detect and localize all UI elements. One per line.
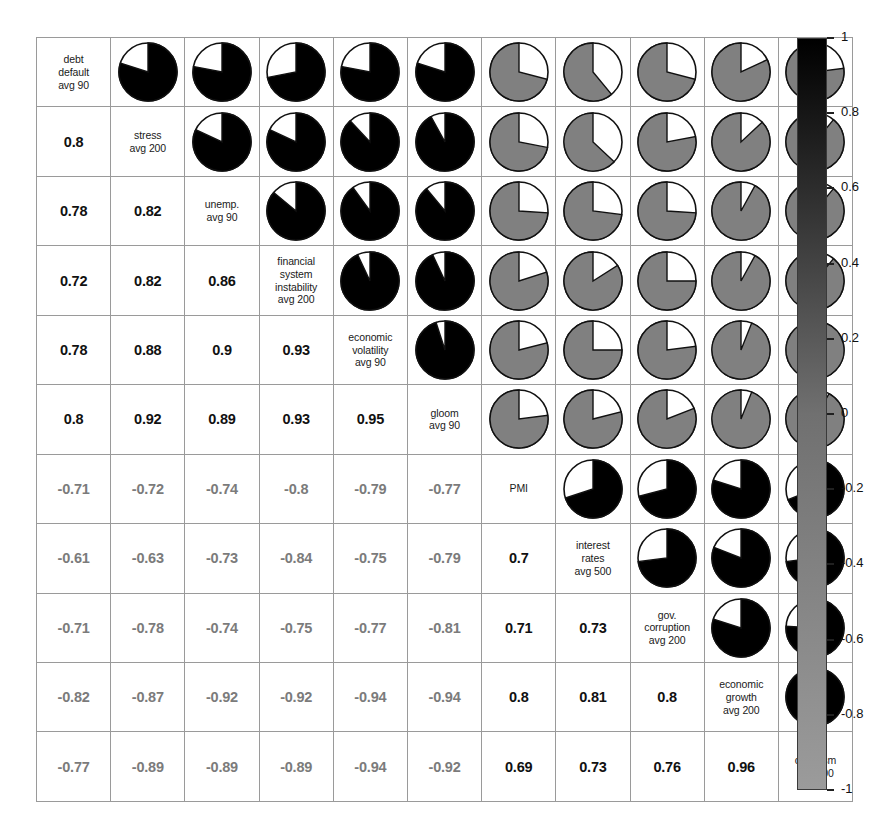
correlation-value: -0.89 [206, 759, 238, 775]
variable-label: gloomavg 90 [408, 407, 481, 433]
correlation-value-cell: 0.96 [704, 732, 778, 801]
colorbar-tick-label: 0.8 [841, 104, 859, 119]
colorbar-tick-mark [827, 789, 834, 791]
pie-glyph [408, 38, 481, 106]
pie-glyph [408, 316, 481, 384]
correlation-pie-cell [333, 176, 407, 245]
pie-glyph [334, 177, 407, 245]
correlation-pie-cell [630, 38, 704, 107]
correlation-pie-cell [407, 176, 481, 245]
colorbar-tick-mark [827, 563, 834, 565]
correlation-pie-cell [482, 107, 556, 176]
correlation-value-cell: -0.77 [333, 593, 407, 662]
colorbar-tick-label: 1 [841, 29, 848, 44]
correlation-value-cell: -0.89 [111, 732, 185, 801]
correlation-pie-cell [704, 246, 778, 315]
pie-glyph [482, 177, 555, 245]
pie-glyph [482, 107, 555, 175]
correlation-value: -0.73 [206, 550, 238, 566]
pie-glyph [631, 385, 704, 453]
correlation-value: -0.89 [280, 759, 312, 775]
correlation-value-cell: 0.95 [333, 385, 407, 454]
correlation-value: -0.94 [429, 689, 461, 705]
correlation-value: -0.75 [354, 550, 386, 566]
correlation-value-cell: -0.72 [111, 454, 185, 523]
correlation-pie-cell [704, 107, 778, 176]
pie-glyph [556, 107, 629, 175]
correlation-value-cell: -0.81 [407, 593, 481, 662]
colorbar-tick-label: 0.4 [841, 255, 859, 270]
correlation-value-cell: 0.8 [482, 662, 556, 731]
diagonal-label-cell: unemp.avg 90 [185, 176, 259, 245]
correlation-pie-cell [704, 385, 778, 454]
correlation-value: 0.73 [579, 620, 606, 636]
correlation-pie-cell [556, 176, 630, 245]
correlation-value: -0.92 [280, 689, 312, 705]
pie-glyph [631, 38, 704, 106]
matrix-row: -0.71-0.78-0.74-0.75-0.77-0.810.710.73go… [37, 593, 853, 662]
correlation-value: 0.96 [728, 759, 755, 775]
correlation-value-cell: -0.94 [333, 732, 407, 801]
variable-label: stressavg 200 [111, 129, 184, 155]
correlation-pie-cell [407, 315, 481, 384]
correlation-value-cell: -0.73 [185, 524, 259, 593]
correlation-pie-cell [630, 524, 704, 593]
correlation-value: 0.78 [60, 203, 87, 219]
correlation-pie-cell [704, 593, 778, 662]
pie-glyph [631, 455, 704, 523]
correlation-pie-cell [407, 246, 481, 315]
correlation-value-cell: -0.8 [259, 454, 333, 523]
pie-glyph [705, 524, 778, 592]
matrix-row: -0.71-0.72-0.74-0.8-0.79-0.77PMI [37, 454, 853, 523]
correlation-value-cell: 0.8 [630, 662, 704, 731]
correlation-pie-cell [259, 107, 333, 176]
correlation-value: 0.92 [134, 411, 161, 427]
correlation-value-cell: -0.94 [333, 662, 407, 731]
correlation-value-cell: -0.75 [333, 524, 407, 593]
correlation-pie-cell [407, 107, 481, 176]
correlation-value: 0.9 [212, 342, 232, 358]
correlation-pie-cell [333, 38, 407, 107]
matrix-row: -0.61-0.63-0.73-0.84-0.75-0.790.7interes… [37, 524, 853, 593]
correlation-value-cell: 0.82 [111, 176, 185, 245]
correlation-value-cell: -0.92 [407, 732, 481, 801]
correlation-value-cell: 0.73 [556, 593, 630, 662]
correlation-value-cell: 0.93 [259, 315, 333, 384]
correlation-pie-cell [630, 315, 704, 384]
correlation-pie-cell [556, 454, 630, 523]
colorbar-tick-label: -0.4 [841, 555, 863, 570]
correlation-pie-cell [630, 454, 704, 523]
correlation-pie-cell [482, 246, 556, 315]
correlation-value: -0.78 [132, 620, 164, 636]
correlation-matrix-grid: debtdefaultavg 900.8stressavg 2000.780.8… [36, 37, 853, 802]
correlation-pie-cell [407, 38, 481, 107]
correlation-value: -0.81 [429, 620, 461, 636]
correlation-value-cell: 0.73 [556, 732, 630, 801]
variable-label: gov.corruptionavg 200 [631, 609, 704, 647]
diagonal-label-cell: financialsysteminstabilityavg 200 [259, 246, 333, 315]
variable-label: PMI [482, 482, 555, 495]
correlation-value-cell: -0.63 [111, 524, 185, 593]
pie-glyph [408, 177, 481, 245]
correlation-value-cell: -0.74 [185, 454, 259, 523]
correlation-value-cell: 0.72 [37, 246, 111, 315]
variable-label: unemp.avg 90 [185, 198, 258, 224]
pie-glyph [260, 38, 333, 106]
diagonal-label-cell: economicvolatilityavg 90 [333, 315, 407, 384]
correlation-value: -0.87 [132, 689, 164, 705]
variable-label: economicgrowthavg 200 [705, 678, 778, 716]
correlation-pie-cell [630, 176, 704, 245]
correlation-pie-cell [704, 524, 778, 593]
pie-glyph [631, 524, 704, 592]
matrix-body: debtdefaultavg 900.8stressavg 2000.780.8… [37, 38, 853, 802]
correlation-value-cell: -0.89 [185, 732, 259, 801]
colorbar-ticks: 10.80.60.40.20-0.2-0.4-0.6-0.8-1 [827, 38, 881, 790]
pie-glyph [334, 38, 407, 106]
correlation-value: 0.95 [357, 411, 384, 427]
colorbar-tick-label: -0.2 [841, 480, 863, 495]
variable-label: interestratesavg 500 [556, 539, 629, 577]
correlation-value-cell: -0.94 [407, 662, 481, 731]
correlation-pie-cell [556, 38, 630, 107]
pie-glyph [482, 316, 555, 384]
correlation-pie-cell [482, 38, 556, 107]
